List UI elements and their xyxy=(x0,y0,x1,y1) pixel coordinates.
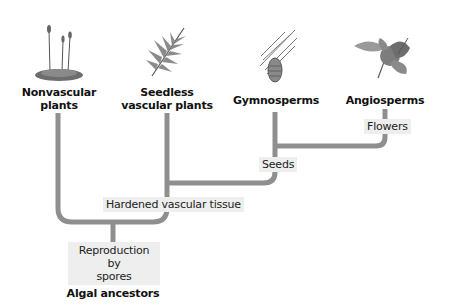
taxon-seedless-line1: Seedless xyxy=(117,86,217,99)
moss-icon xyxy=(32,22,87,82)
taxon-gymnosperms: Gymnosperms xyxy=(230,94,322,107)
taxon-nonvascular-line2: plants xyxy=(14,99,104,112)
trait-reproduction-line1: Reproduction by xyxy=(71,244,157,270)
flower-icon xyxy=(350,34,420,84)
taxon-seedless-line2: vascular plants xyxy=(117,99,217,112)
taxon-nonvascular: Nonvascular plants xyxy=(14,86,104,112)
taxon-nonvascular-line1: Nonvascular xyxy=(14,86,104,99)
trait-flowers: Flowers xyxy=(364,119,411,134)
trait-seeds: Seeds xyxy=(259,157,297,172)
taxon-seedless: Seedless vascular plants xyxy=(117,86,217,112)
trait-hardened-vascular-tissue: Hardened vascular tissue xyxy=(103,197,244,212)
fern-icon xyxy=(142,24,192,79)
root-algal-ancestors: Algal ancestors xyxy=(63,287,163,300)
pine-cone-icon xyxy=(255,26,300,86)
branch-angio-join xyxy=(275,133,385,146)
trait-reproduction-by-spores: Reproduction by spores xyxy=(68,242,160,285)
branch-gymnosperms xyxy=(167,112,275,183)
trait-reproduction-line2: spores xyxy=(71,270,157,283)
taxon-angiosperms: Angiosperms xyxy=(342,94,428,107)
